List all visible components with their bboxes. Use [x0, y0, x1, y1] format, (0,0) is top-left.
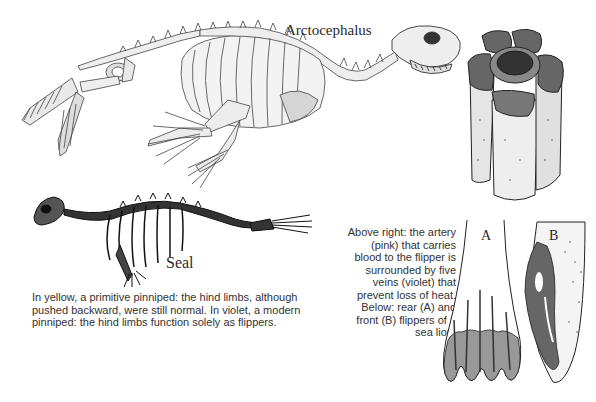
caption-line: In yellow, a primitive pinniped: the hin… [32, 291, 332, 304]
caption-line: blood to the flipper is [330, 251, 456, 264]
flipper-a-label: A [481, 228, 491, 244]
skeleton-caption: In yellow, a primitive pinniped: the hin… [32, 291, 332, 329]
caption-line: front (B) flippers of a [330, 314, 456, 327]
caption-line: Below: rear (A) and [330, 301, 456, 314]
caption-line: (pink) that carries [330, 239, 456, 252]
caption-line: surrounded by five [330, 264, 456, 277]
caption-line: Above right: the artery [330, 226, 456, 239]
front-flipper-illustration [525, 222, 595, 392]
caption-line: pushed backward, were still normal. In v… [32, 304, 332, 317]
seal-label: Seal [166, 254, 194, 272]
caption-line: pinniped: the hind limbs function solely… [32, 316, 332, 329]
vessel-bundle-illustration [460, 20, 590, 210]
rear-flipper-illustration [440, 220, 530, 400]
flipper-b-label: B [549, 228, 558, 244]
caption-line: prevent loss of heat. [330, 289, 456, 302]
caption-line: veins (violet) that [330, 276, 456, 289]
arctocephalus-skeleton-illustration [0, 0, 470, 190]
flipper-caption: Above right: the artery (pink) that carr… [330, 226, 456, 339]
arctocephalus-label: Arctocephalus [285, 22, 372, 39]
caption-line: sea lion. [330, 326, 456, 339]
